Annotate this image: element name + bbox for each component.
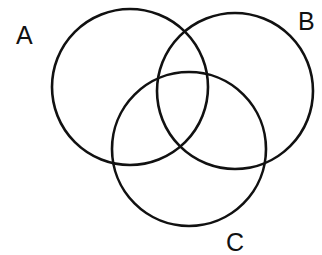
label-b: B: [298, 9, 315, 34]
label-c: C: [226, 230, 244, 255]
circle-c: [112, 72, 266, 226]
label-a: A: [16, 23, 33, 48]
circle-b: [157, 13, 313, 169]
